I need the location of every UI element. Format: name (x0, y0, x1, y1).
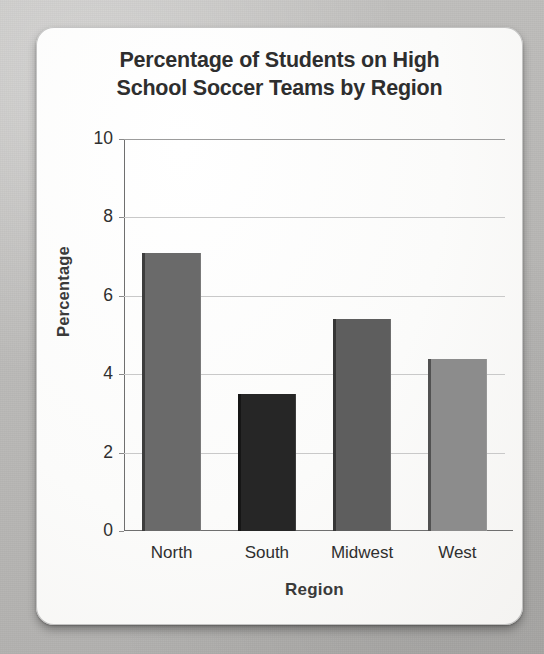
bar-midwest[interactable]: Midwest (333, 319, 392, 531)
chart-title: Percentage of Students on High School So… (54, 46, 505, 103)
x-tick-label-midwest: Midwest (331, 543, 393, 563)
y-tick-label-4: 4 (103, 363, 113, 384)
chart-title-line-2: School Soccer Teams by Region (54, 74, 505, 102)
y-tick-label-0: 0 (103, 520, 113, 541)
chart-title-line-1: Percentage of Students on High (54, 46, 505, 74)
y-tick-label-8: 8 (103, 206, 113, 227)
chart-card: Percentage of Students on High School So… (36, 27, 523, 625)
x-tick-label-west: West (438, 543, 476, 563)
plot-area: 0246810 NorthSouthMidwestWest (124, 139, 505, 531)
scanned-page: Percentage of Students on High School So… (0, 0, 544, 654)
bar-north[interactable]: North (142, 253, 201, 531)
x-axis-label: Region (124, 580, 505, 600)
y-tick-label-10: 10 (94, 128, 113, 149)
x-tick-label-south: South (245, 543, 289, 563)
y-tick-mark-0 (119, 531, 124, 532)
y-axis-label: Percentage (54, 232, 73, 352)
bar-west[interactable]: West (428, 359, 487, 531)
bar-south[interactable]: South (238, 394, 297, 531)
x-tick-label-north: North (151, 543, 193, 563)
bars-group: NorthSouthMidwestWest (124, 139, 505, 531)
y-tick-label-6: 6 (103, 285, 113, 306)
y-tick-label-2: 2 (103, 442, 113, 463)
